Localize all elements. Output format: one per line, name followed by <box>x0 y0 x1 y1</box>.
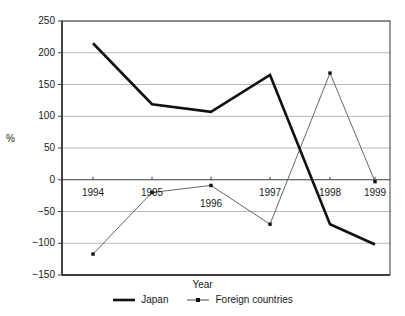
y-axis-tick-label: −100 <box>21 238 55 248</box>
x-axis-tick-label: 1994 <box>71 188 115 198</box>
y-axis-tick-label: 100 <box>21 111 55 121</box>
chart-legend: Japan Foreign countries <box>0 294 405 305</box>
data-point-marker <box>328 71 331 74</box>
x-axis-title: Year <box>0 279 405 290</box>
x-axis-tick-label: 1995 <box>130 188 174 198</box>
y-axis-tick-label: 250 <box>21 16 55 26</box>
data-point-marker <box>91 252 94 255</box>
legend-label-foreign-countries: Foreign countries <box>215 294 292 305</box>
y-axis-tick-label: −50 <box>21 207 55 217</box>
legend-label-japan: Japan <box>141 294 168 305</box>
thin-line-dot-swatch-icon <box>186 295 210 305</box>
series-line-foreign-countries <box>93 73 375 254</box>
x-axis-tick-label: 1996 <box>189 199 233 209</box>
data-point-marker <box>373 180 376 183</box>
x-axis-tick-label: 1999 <box>353 188 397 198</box>
data-point-marker <box>209 184 212 187</box>
x-axis-tick-label: 1998 <box>308 188 352 198</box>
data-point-marker <box>268 223 271 226</box>
x-axis-tick-label: 1997 <box>248 188 292 198</box>
plot-area <box>0 0 405 316</box>
y-axis-tick-label: 50 <box>21 143 55 153</box>
y-axis-tick-labels: 250200150100500−50−100−150 <box>21 0 55 316</box>
y-axis-tick-label: 200 <box>21 48 55 58</box>
series-line-japan <box>93 43 375 244</box>
line-chart: % 250200150100500−50−100−150 19941995199… <box>0 0 405 316</box>
legend-item-japan[interactable]: Japan <box>112 294 168 305</box>
y-axis-title: % <box>6 133 15 144</box>
thick-line-swatch-icon <box>112 295 136 305</box>
y-axis-tick-label: 150 <box>21 80 55 90</box>
legend-item-foreign-countries[interactable]: Foreign countries <box>186 294 292 305</box>
y-axis-tick-label: 0 <box>21 175 55 185</box>
